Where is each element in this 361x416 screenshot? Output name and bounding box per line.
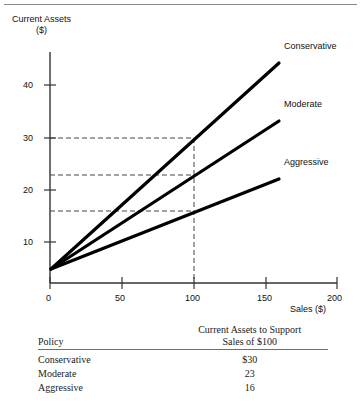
table-header-policy: Policy	[38, 324, 171, 350]
figure-page: Current Assets ($) Sales ($) 40 30 20 10…	[0, 0, 361, 416]
y-axis-title-line1: Current Assets	[12, 14, 71, 24]
series-label-conservative: Conservative	[284, 41, 337, 51]
x-tick-label-150: 150	[257, 293, 272, 303]
summary-table: Policy Current Assets to Support Sales o…	[38, 324, 328, 394]
table-header-row: Policy Current Assets to Support Sales o…	[38, 324, 328, 350]
table-header-line1: Current Assets to Support	[171, 324, 328, 336]
table-cell-policy: Moderate	[38, 366, 171, 380]
chart-canvas	[0, 14, 361, 324]
line-chart: Current Assets ($) Sales ($) 40 30 20 10…	[0, 14, 361, 324]
table-row: Moderate 23	[38, 366, 328, 380]
y-tick-label-30: 30	[23, 133, 33, 143]
table-cell-value: $30	[171, 350, 328, 367]
y-axis-title-line2: ($)	[12, 25, 71, 36]
x-axis-title: Sales ($)	[290, 304, 326, 315]
y-tick-label-10: 10	[23, 237, 33, 247]
x-tick-label-100: 100	[185, 293, 200, 303]
y-tick-label-20: 20	[23, 185, 33, 195]
table-body: Conservative $30 Moderate 23 Aggressive …	[38, 350, 328, 395]
series-label-moderate: Moderate	[284, 99, 322, 109]
x-tick-label-0: 0	[46, 293, 51, 303]
series-line-aggressive	[51, 179, 279, 269]
table-cell-value: 23	[171, 366, 328, 380]
series-line-conservative	[51, 63, 279, 269]
series-line-moderate	[51, 121, 279, 269]
series-label-aggressive: Aggressive	[284, 157, 329, 167]
table-cell-value: 16	[171, 380, 328, 394]
table-row: Conservative $30	[38, 350, 328, 367]
table-header-current-assets: Current Assets to Support Sales of $100	[171, 324, 328, 350]
table-cell-policy: Aggressive	[38, 380, 171, 394]
x-tick-label-50: 50	[115, 293, 125, 303]
y-axis-title: Current Assets ($)	[12, 14, 71, 36]
table-cell-policy: Conservative	[38, 350, 171, 367]
x-tick-label-200: 200	[327, 293, 342, 303]
top-divider	[4, 4, 357, 5]
table-row: Aggressive 16	[38, 380, 328, 394]
table-header-line2: Sales of $100	[171, 336, 328, 348]
y-tick-label-40: 40	[23, 80, 33, 90]
